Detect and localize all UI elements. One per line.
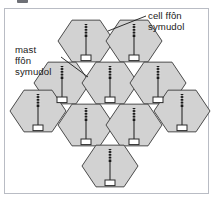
figure-root: cell ffôn symudol mast ffôn symudol xyxy=(0,0,217,205)
cell-label: cell ffôn symudol xyxy=(148,10,184,32)
diagram-canvas xyxy=(0,0,217,205)
mast-label: mast ffôn symudol xyxy=(15,44,51,78)
